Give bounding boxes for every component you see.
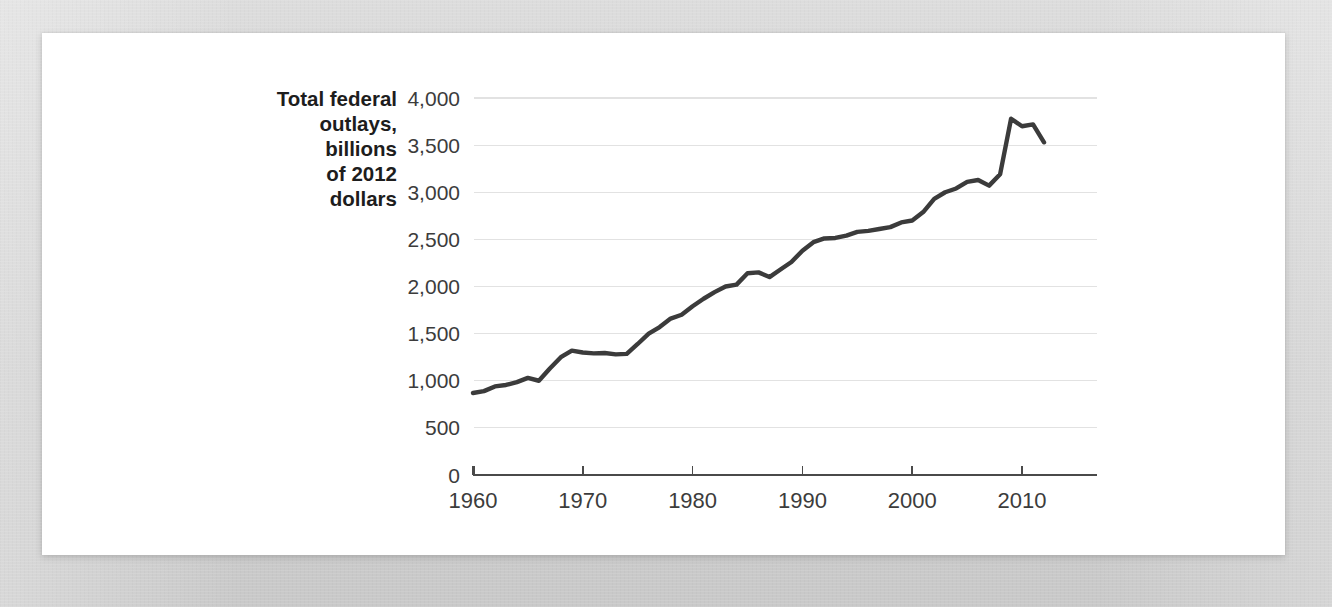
y-axis-title: Total federaloutlays,billionsof 2012doll…: [277, 87, 397, 210]
line-chart: 05001,0001,5002,0002,5003,0003,5004,000 …: [42, 33, 1285, 555]
x-tick-label: 2010: [998, 488, 1047, 513]
y-tick-label: 3,000: [407, 181, 460, 204]
y-axis-title-line: of 2012: [326, 162, 397, 185]
data-line-total-federal-outlays: [473, 119, 1044, 393]
y-tick-label: 3,500: [407, 134, 460, 157]
chart-canvas: 05001,0001,5002,0002,5003,0003,5004,000 …: [42, 33, 1285, 555]
x-axis-tick-labels: 196019701980199020002010: [449, 488, 1047, 513]
x-axis: [473, 466, 1097, 475]
x-tick-label: 1960: [449, 488, 498, 513]
figure-card: 05001,0001,5002,0002,5003,0003,5004,000 …: [42, 33, 1285, 555]
y-axis-title-line: billions: [325, 137, 397, 160]
x-tick-label: 1970: [558, 488, 607, 513]
y-axis-title-line: dollars: [330, 187, 397, 210]
y-tick-label: 2,500: [407, 228, 460, 251]
x-tick-label: 1990: [778, 488, 827, 513]
y-tick-label: 4,000: [407, 87, 460, 110]
y-tick-label: 500: [425, 416, 460, 439]
y-tick-label: 0: [448, 464, 460, 487]
y-tick-label: 2,000: [407, 275, 460, 298]
y-axis-tick-labels: 05001,0001,5002,0002,5003,0003,5004,000: [407, 87, 460, 487]
x-tick-label: 1980: [668, 488, 717, 513]
y-tick-label: 1,500: [407, 322, 460, 345]
x-tick-label: 2000: [888, 488, 937, 513]
y-axis-title-line: outlays,: [320, 112, 397, 135]
x-axis-line: [474, 466, 1097, 475]
y-axis-title-line: Total federal: [277, 87, 397, 110]
y-tick-label: 1,000: [407, 369, 460, 392]
